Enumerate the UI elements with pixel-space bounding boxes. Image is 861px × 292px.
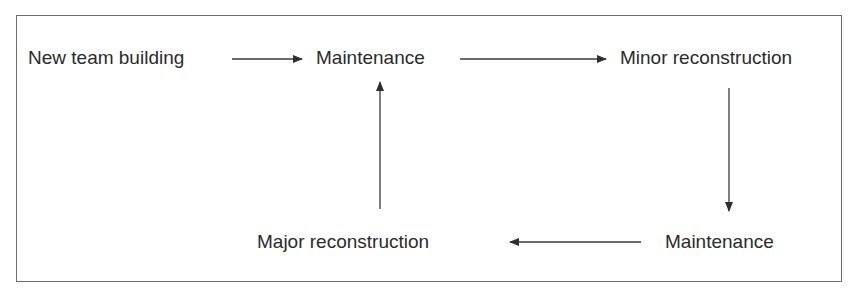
arrows-layer (0, 0, 861, 292)
